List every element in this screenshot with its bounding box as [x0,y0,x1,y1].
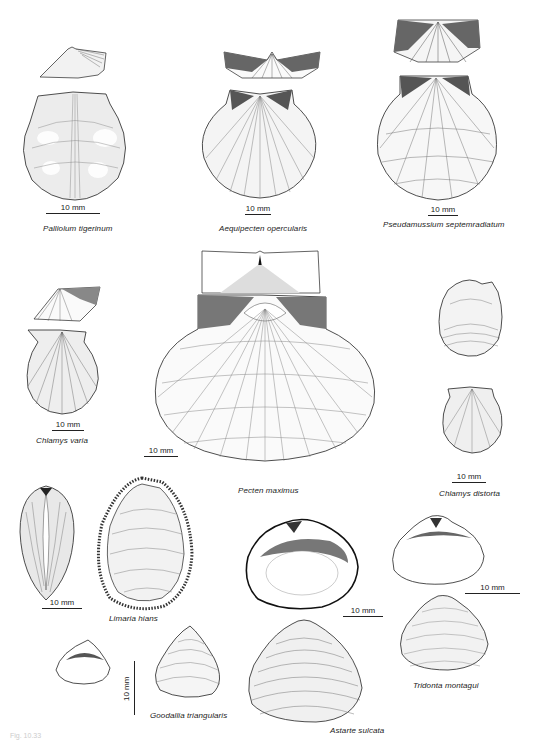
species-label-chlamys-distorta: Chlamys distorta [439,489,500,498]
chlamys-distorta-lower-drawing [440,385,506,455]
scale-text: 10 mm [140,446,182,455]
astarte-sulcata-exterior-drawing [246,618,368,724]
goodallia-exterior-drawing [150,624,226,700]
scale-bar-astarte: 10 mm [343,606,383,617]
scale-bar-pseudamussium: 10 mm [428,205,458,216]
chlamys-varia-hinge-drawing [32,285,102,323]
pseudamussium-hinge-drawing [388,18,488,66]
astarte-sulcata-interior-drawing [244,517,362,611]
scale-bar-limaria: 10 mm [42,598,82,609]
scale-text: 10 mm [46,203,100,212]
species-label-pseudamussium: Pseudamussium septemradiatum [383,220,505,229]
species-label-pecten-maximus: Pecten maximus [238,486,299,495]
scale-text: 10 mm [422,205,464,214]
species-label-aequipecten: Aequipecten opercularis [219,224,307,233]
figure-number: Fig. 10.33 [10,732,41,739]
aequipecten-hinge-drawing [222,50,322,80]
scale-text: 10 mm [343,606,383,615]
scale-text: 10 mm [448,472,490,481]
palliolum-hinge-drawing [38,45,108,80]
chlamys-varia-valve-drawing [24,328,104,416]
scale-text: 10 mm [122,677,131,701]
scale-bar-goodallia: 10 mm [134,661,144,715]
goodallia-interior-drawing [54,638,114,686]
tridonta-montagui-exterior-drawing [398,594,492,672]
scale-bar-chlamys-varia: 10 mm [52,420,84,431]
scale-bar-palliolum: 10 mm [46,203,100,214]
chlamys-distorta-upper-drawing [436,278,506,358]
pecten-maximus-valve-drawing [150,293,380,463]
species-label-goodallia: Goodallia triangularis [150,711,227,720]
species-label-tridonta-montagui: Tridonta montagui [413,681,479,690]
scale-text: 10 mm [42,598,82,607]
scale-text: 10 mm [46,420,90,429]
palliolum-valve-drawing [18,88,133,203]
scale-bar-chlamys-distorta: 10 mm [452,472,486,483]
species-label-palliolum: Palliolum tigerinum [43,224,112,233]
species-label-astarte-sulcata: Astarte sulcata [330,726,384,735]
limaria-hians-side-drawing [16,482,78,602]
scale-bar-aequipecten: 10 mm [245,204,271,215]
pecten-maximus-hinge-drawing [200,249,320,295]
scale-text: 10 mm [239,204,277,213]
scale-text: 10 mm [465,583,520,592]
species-label-limaria-hians: Limaria hians [109,614,158,623]
scale-bar-pecten-maximus: 10 mm [144,446,178,457]
tridonta-montagui-interior-drawing [390,514,488,586]
species-label-chlamys-varia: Chlamys varia [36,436,88,445]
pseudamussium-valve-drawing [372,74,502,202]
scale-bar-tridonta: 10 mm [465,583,520,594]
aequipecten-valve-drawing [196,88,324,200]
limaria-hians-valve-drawing [90,474,200,614]
